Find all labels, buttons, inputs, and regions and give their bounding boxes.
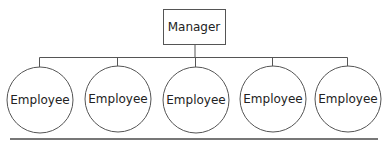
employee-label: Employee [10,93,69,107]
employee-label: Employee [318,92,377,106]
employee-label: Employee [88,92,147,106]
manager-label: Manager [168,20,221,34]
employee-label: Employee [243,92,302,106]
employee-label: Employee [166,93,225,107]
